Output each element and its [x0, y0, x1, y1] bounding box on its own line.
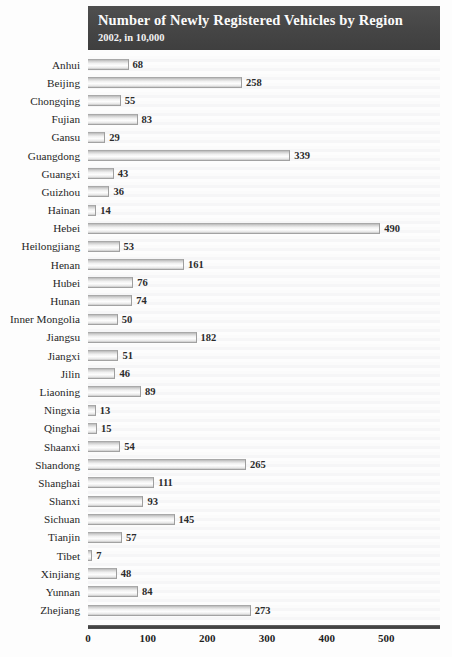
bar-row: 490 [88, 220, 440, 238]
category-label-row: Hebei [0, 220, 84, 238]
category-label-row: Shandong [0, 456, 84, 474]
category-label: Fujian [51, 113, 80, 126]
bar [88, 350, 118, 361]
bar-row: 14 [88, 202, 440, 220]
category-label: Liaoning [40, 386, 80, 399]
bar [88, 568, 117, 579]
bar-row: 93 [88, 493, 440, 511]
bar-value-label: 14 [100, 203, 111, 218]
bar-row: 55 [88, 92, 440, 110]
plot-area: 6825855832933943361449053161767450182514… [88, 56, 440, 624]
bar-value-label: 258 [246, 75, 262, 90]
category-label-row: Ningxia [0, 402, 84, 420]
category-label-row: Hainan [0, 202, 84, 220]
bar [88, 441, 120, 452]
bar-value-label: 29 [109, 130, 120, 145]
bar-value-label: 339 [294, 148, 310, 163]
bar [88, 168, 114, 179]
x-axis-tick: 200 [199, 631, 216, 645]
bar-value-label: 265 [250, 457, 266, 472]
category-label-row: Gansu [0, 129, 84, 147]
bar-row: 50 [88, 311, 440, 329]
bar-value-label: 84 [142, 584, 153, 599]
category-label-row: Jilin [0, 365, 84, 383]
category-label: Beijing [47, 77, 80, 90]
bar [88, 259, 184, 270]
bar-row: 54 [88, 438, 440, 456]
category-label-row: Shanghai [0, 474, 84, 492]
category-label-row: Heilongjiang [0, 238, 84, 256]
category-label-row: Inner Mongolia [0, 311, 84, 329]
bar-value-label: 83 [142, 112, 153, 127]
bar-value-label: 93 [147, 494, 158, 509]
bar-value-label: 89 [145, 384, 156, 399]
category-label-row: Hubei [0, 274, 84, 292]
category-label-row: Zhejiang [0, 602, 84, 620]
bar-row: 161 [88, 256, 440, 274]
category-label: Shanghai [38, 477, 80, 490]
bar-chart: Number of Newly Registered Vehicles by R… [0, 0, 452, 657]
category-label-row: Yunnan [0, 583, 84, 601]
category-label: Xinjiang [41, 568, 80, 581]
bar-row: 48 [88, 565, 440, 583]
bar-value-label: 53 [124, 239, 135, 254]
bar [88, 550, 92, 561]
bar-value-label: 273 [255, 603, 271, 618]
category-label-row: Jiangxi [0, 347, 84, 365]
category-label: Ningxia [44, 404, 80, 417]
bar-row: 7 [88, 547, 440, 565]
bar-row: 265 [88, 456, 440, 474]
bar [88, 332, 197, 343]
category-label-row: Fujian [0, 111, 84, 129]
category-label-row: Tianjin [0, 529, 84, 547]
x-axis-tick: 100 [139, 631, 156, 645]
bar [88, 368, 115, 379]
x-axis-tick-labels: 0100200300400500 [88, 631, 440, 649]
category-label-row: Sichuan [0, 511, 84, 529]
bar-row: 258 [88, 74, 440, 92]
category-label: Shandong [35, 459, 80, 472]
bar [88, 314, 118, 325]
bar [88, 114, 138, 125]
category-label: Guizhou [41, 186, 80, 199]
category-label-row: Shaanxi [0, 438, 84, 456]
bar-row: 89 [88, 383, 440, 401]
bar-value-label: 490 [384, 221, 400, 236]
bar-value-label: 43 [118, 166, 129, 181]
bar-row: 13 [88, 402, 440, 420]
category-label-row: Shanxi [0, 493, 84, 511]
bar-value-label: 50 [122, 312, 133, 327]
bar [88, 186, 109, 197]
bar [88, 386, 141, 397]
category-label: Tianjin [48, 531, 80, 544]
category-label: Anhui [52, 59, 80, 72]
category-label-row: Jiangsu [0, 329, 84, 347]
bar-row: 29 [88, 129, 440, 147]
bar [88, 459, 246, 470]
bar-value-label: 57 [126, 530, 137, 545]
category-label: Jiangsu [46, 331, 80, 344]
chart-header: Number of Newly Registered Vehicles by R… [88, 6, 440, 50]
category-label: Jilin [61, 368, 80, 381]
bar [88, 295, 132, 306]
bar-value-label: 54 [124, 439, 135, 454]
category-label: Hunan [50, 295, 80, 308]
category-label: Yunnan [46, 586, 80, 599]
category-label-row: Liaoning [0, 383, 84, 401]
bar-value-label: 161 [188, 257, 204, 272]
category-label: Tibet [57, 550, 80, 563]
bar-value-label: 36 [113, 184, 124, 199]
bar-row: 182 [88, 329, 440, 347]
bar [88, 423, 97, 434]
bar-value-label: 145 [179, 512, 195, 527]
bar-row: 145 [88, 511, 440, 529]
category-axis-labels: AnhuiBeijingChongqingFujianGansuGuangdon… [0, 56, 84, 624]
bar-row: 84 [88, 583, 440, 601]
bar-row: 57 [88, 529, 440, 547]
bar-value-label: 48 [121, 566, 132, 581]
bar [88, 477, 154, 488]
category-label: Hubei [53, 277, 80, 290]
bar [88, 514, 175, 525]
category-label-row: Guangxi [0, 165, 84, 183]
bar [88, 223, 380, 234]
